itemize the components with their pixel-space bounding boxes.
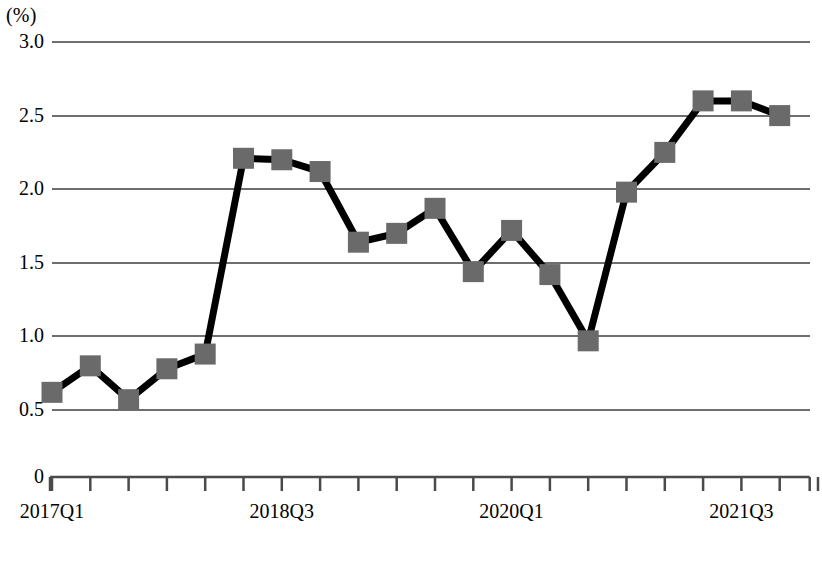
x-axis-label-2020Q1: 2020Q1 — [479, 500, 543, 522]
x-axis — [0, 0, 822, 563]
x-axis-label-2021Q3: 2021Q3 — [709, 500, 773, 522]
chart-container: (%) 00.51.01.52.02.53.0 2017Q12018Q32020… — [0, 0, 822, 563]
x-axis-label-2017Q1: 2017Q1 — [20, 500, 84, 522]
x-axis-label-2018Q3: 2018Q3 — [250, 500, 314, 522]
